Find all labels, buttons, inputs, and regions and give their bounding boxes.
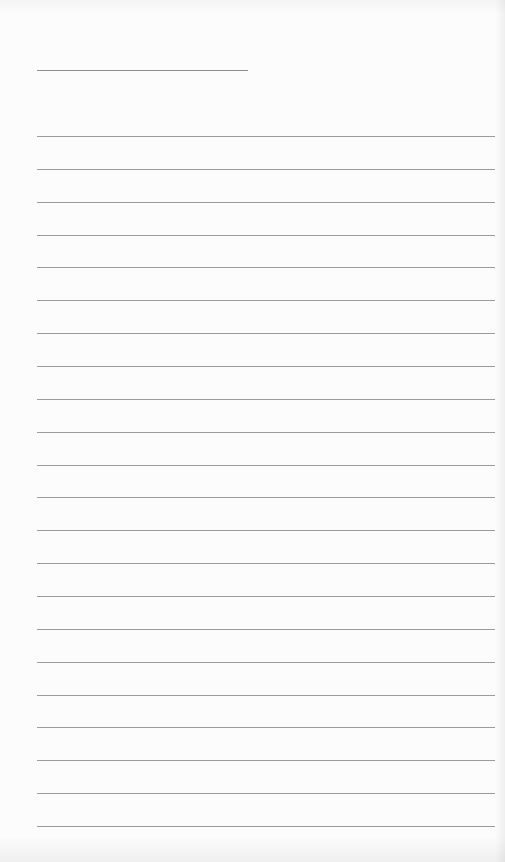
ruled-line bbox=[37, 202, 495, 203]
ruled-line bbox=[37, 629, 495, 630]
ruled-lines-area bbox=[37, 0, 495, 862]
ruled-line bbox=[37, 136, 495, 137]
ruled-line bbox=[37, 169, 495, 170]
ruled-line bbox=[37, 695, 495, 696]
ruled-line bbox=[37, 300, 495, 301]
ruled-line bbox=[37, 432, 495, 433]
ruled-line bbox=[37, 596, 495, 597]
ruled-line bbox=[37, 267, 495, 268]
ruled-line bbox=[37, 662, 495, 663]
ruled-line bbox=[37, 399, 495, 400]
ruled-line bbox=[37, 333, 495, 334]
ruled-line bbox=[37, 497, 495, 498]
ruled-line bbox=[37, 826, 495, 827]
ruled-line bbox=[37, 563, 495, 564]
ruled-line bbox=[37, 366, 495, 367]
ruled-line bbox=[37, 465, 495, 466]
ruled-line bbox=[37, 235, 495, 236]
ruled-line bbox=[37, 530, 495, 531]
lined-paper-page bbox=[0, 0, 505, 862]
ruled-line bbox=[37, 793, 495, 794]
ruled-line bbox=[37, 727, 495, 728]
ruled-line bbox=[37, 760, 495, 761]
